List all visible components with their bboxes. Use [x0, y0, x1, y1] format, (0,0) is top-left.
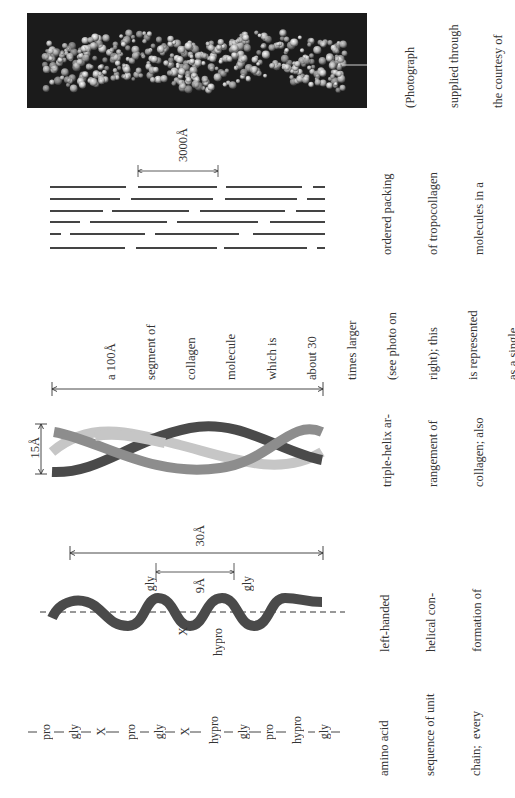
- residue: X: [178, 727, 193, 736]
- triple-helix-width-label: 15Å: [28, 437, 43, 459]
- residue: pro: [39, 724, 54, 740]
- fibril-caption: ordered packing of tropocollagen molecul…: [350, 160, 515, 255]
- helix-label-gly-2: gly: [240, 576, 255, 591]
- triple-helix-caption: triple-helix ar- rangement of collagen; …: [350, 405, 515, 487]
- single-helix-caption: left-handed helical con- formation of in…: [348, 570, 515, 652]
- residue: gly: [317, 724, 332, 739]
- helix-label-gly-1: gly: [143, 576, 158, 591]
- helix-label-hypro: hypro: [211, 628, 226, 656]
- residue: hypro: [290, 716, 305, 744]
- residue: gly: [236, 724, 251, 739]
- residue: pro: [124, 724, 139, 740]
- helix-pitch-label: 30Å: [193, 525, 208, 547]
- segment-length-bar: [52, 382, 323, 396]
- sequence-caption: amino acid sequence of unit chain; every…: [347, 680, 515, 776]
- residue: pro: [262, 724, 277, 740]
- helix-label-x: X: [176, 627, 191, 636]
- triple-helix: [52, 426, 322, 472]
- residue: hypro: [207, 716, 222, 744]
- collagen-fibril-lines: [50, 187, 325, 248]
- helix-pitch-bar: [70, 546, 323, 560]
- segment-caption: a 100Å segment of collagen molecule whic…: [78, 298, 515, 380]
- single-chain-helix: [40, 598, 345, 626]
- fibril-scale-bar: [138, 165, 218, 177]
- residue: X: [94, 727, 109, 736]
- fibril-scale-label: 3000Å: [176, 128, 191, 162]
- residue-spacing-label: 9Å: [193, 578, 208, 593]
- residue: gly: [152, 724, 167, 739]
- diagram-drawings: [0, 0, 515, 798]
- residue: gly: [67, 724, 82, 739]
- amino-acid-sequence: pro gly X pro gly X hypro gly pro hypro …: [25, 712, 345, 752]
